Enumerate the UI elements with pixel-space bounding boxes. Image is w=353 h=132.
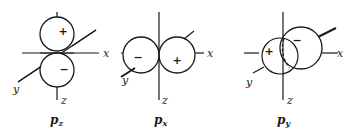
sign-minus: − <box>292 34 301 47</box>
sign-plus: + <box>58 25 67 38</box>
z-axis-label: z <box>161 94 168 107</box>
orbital-label-pz: pz <box>50 113 63 128</box>
orbital-label-py: py <box>277 113 291 128</box>
x-axis-label: x <box>337 47 344 60</box>
x-axis-label: x <box>207 47 214 60</box>
z-axis-label: z <box>286 94 293 107</box>
y-axis-label: y <box>12 83 20 96</box>
y-axis-rear-segment <box>72 30 96 46</box>
y-axis-label: y <box>245 76 253 89</box>
orbital-label-px: px <box>154 113 167 128</box>
sign-minus: − <box>59 63 68 76</box>
sign-plus: + <box>172 54 181 67</box>
panel-px: − + x y z px <box>121 12 214 128</box>
p-orbitals-diagram: + − x y z pz − + x y z px <box>0 0 353 132</box>
y-axis-back-stub <box>318 28 336 37</box>
y-axis-label: y <box>121 74 129 87</box>
y-axis-front-segment <box>18 67 41 83</box>
panel-pz: + − x y z pz <box>12 12 110 128</box>
sign-plus: + <box>264 45 273 58</box>
x-axis-label: x <box>103 47 110 60</box>
z-axis-label: z <box>60 94 67 107</box>
sign-minus: − <box>133 51 142 64</box>
lobe-top <box>40 17 74 51</box>
lobe-bottom <box>40 53 74 87</box>
y-axis-back-stub <box>184 31 194 39</box>
y-axis-front-stub <box>253 67 264 73</box>
panel-py: + − x y z py <box>244 12 344 128</box>
